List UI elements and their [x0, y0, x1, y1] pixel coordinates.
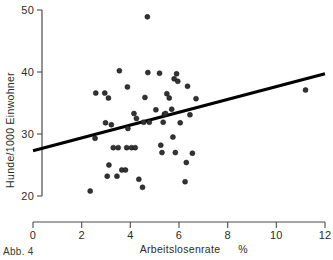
- data-point: [111, 145, 116, 150]
- data-point: [142, 95, 147, 100]
- y-ticklabel-20: 20: [21, 190, 34, 202]
- y-axis: 50 40 30 20 Hunde/1000 Einwohner: [4, 4, 42, 202]
- data-point: [175, 79, 180, 84]
- data-point: [93, 91, 98, 96]
- data-point: [125, 126, 130, 131]
- data-point: [147, 120, 152, 125]
- x-ticklabel-6: 6: [176, 229, 182, 241]
- data-point: [174, 71, 179, 76]
- data-point: [106, 96, 111, 101]
- data-point: [167, 96, 172, 101]
- data-point: [194, 96, 199, 101]
- data-point: [102, 91, 107, 96]
- x-ticklabel-0: 0: [30, 229, 36, 241]
- data-point: [163, 111, 168, 116]
- data-point: [93, 136, 98, 141]
- regression-line: [33, 74, 325, 151]
- data-point: [133, 145, 138, 150]
- data-point: [303, 87, 308, 92]
- data-point: [158, 143, 163, 148]
- data-point: [159, 150, 164, 155]
- x-axis-unit: %: [238, 243, 248, 255]
- data-point: [190, 151, 195, 156]
- data-point: [114, 174, 119, 179]
- data-point: [141, 120, 146, 125]
- x-ticklabel-12: 12: [319, 229, 332, 241]
- figure-caption: Abb. 4: [3, 246, 34, 257]
- data-point: [123, 167, 128, 172]
- y-axis-title: Hunde/1000 Einwohner: [4, 72, 16, 188]
- data-point: [145, 70, 150, 75]
- data-point: [170, 135, 175, 140]
- data-point: [105, 174, 110, 179]
- data-point: [140, 185, 145, 190]
- data-point: [157, 71, 162, 76]
- data-point: [161, 120, 166, 125]
- data-point: [169, 107, 174, 112]
- x-ticklabel-10: 10: [270, 229, 283, 241]
- data-point: [178, 120, 183, 125]
- x-ticklabel-4: 4: [127, 229, 133, 241]
- x-axis-title: Arbeitslosenrate: [140, 243, 221, 255]
- data-point: [187, 112, 192, 117]
- y-ticklabel-50: 50: [21, 4, 34, 16]
- x-ticklabel-8: 8: [225, 229, 231, 241]
- data-point: [109, 122, 114, 127]
- plot-canvas: 50 40 30 20 Hunde/1000 Einwohner 0 2 4 6…: [0, 0, 333, 260]
- data-point: [131, 111, 136, 116]
- data-points-layer: [88, 14, 308, 193]
- data-point: [134, 116, 139, 121]
- x-ticklabel-2: 2: [79, 229, 85, 241]
- x-axis: 0 2 4 6 8 10 12 Arbeitslosenrate %: [30, 222, 331, 255]
- y-ticklabel-30: 30: [21, 128, 34, 140]
- data-point: [185, 84, 190, 89]
- data-point: [117, 68, 122, 73]
- scatter-plot-figure: 50 40 30 20 Hunde/1000 Einwohner 0 2 4 6…: [0, 0, 333, 260]
- data-point: [153, 107, 158, 112]
- data-point: [106, 163, 111, 168]
- data-point: [88, 189, 93, 194]
- data-point: [183, 179, 188, 184]
- data-point: [124, 145, 129, 150]
- data-point: [136, 177, 141, 182]
- data-point: [103, 120, 108, 125]
- data-point: [184, 160, 189, 165]
- data-point: [125, 84, 130, 89]
- data-point: [145, 14, 150, 19]
- y-ticklabel-40: 40: [21, 66, 34, 78]
- data-point: [116, 145, 121, 150]
- data-point: [173, 150, 178, 155]
